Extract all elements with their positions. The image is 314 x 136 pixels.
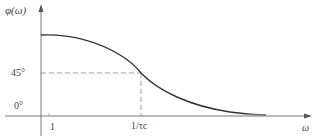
y-axis-arrow-icon	[39, 4, 44, 12]
x-tick-1-label: 1	[50, 122, 55, 132]
y-axis-label: φ(ω)	[5, 5, 26, 16]
y-tick-0-label: 0°	[14, 101, 23, 111]
x-tick-tauc-label: 1/τc	[131, 121, 147, 131]
y-tick-45-label: 45°	[11, 68, 25, 78]
phase-plot	[0, 0, 314, 136]
x-axis-arrow-icon	[304, 114, 312, 119]
phase-curve	[41, 35, 266, 115]
x-axis-label: ω	[302, 123, 309, 133]
